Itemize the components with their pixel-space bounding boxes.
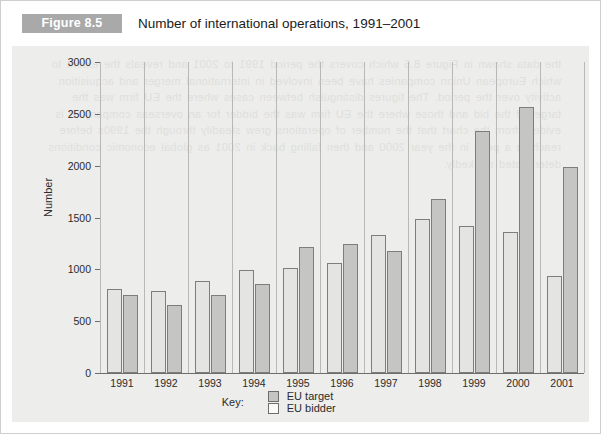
- legend-key-label: Key:: [222, 396, 244, 408]
- x-axis-tick-label: 1991: [100, 377, 144, 389]
- group-separator: [320, 62, 321, 373]
- y-axis-title: Number: [42, 178, 54, 217]
- bar-group: [232, 62, 276, 373]
- y-axis-tick-label: 500: [73, 315, 91, 327]
- y-axis-tick-label: 1000: [68, 263, 91, 275]
- outlined-white-swatch: [268, 403, 279, 414]
- group-separator: [144, 62, 145, 373]
- bar-eu-target-1997: [371, 235, 386, 373]
- bar-eu-target-1999: [459, 226, 474, 373]
- y-axis-tick: [95, 373, 101, 374]
- bar-eu-bidder-1997: [387, 251, 402, 373]
- bar-eu-target-1993: [195, 281, 210, 373]
- legend-entry-eu-target: EU target: [268, 390, 333, 402]
- group-separator: [100, 62, 101, 373]
- x-axis-tick-label: 1992: [144, 377, 188, 389]
- x-axis-tick-label: 1994: [232, 377, 276, 389]
- bar-eu-bidder-1992: [167, 305, 182, 373]
- bar-group: [540, 62, 584, 373]
- x-axis-tick-label: 1997: [364, 377, 408, 389]
- group-separator: [540, 62, 541, 373]
- figure-title: Number of international operations, 1991…: [138, 14, 420, 33]
- group-separator: [408, 62, 409, 373]
- group-separator: [496, 62, 497, 373]
- group-separator: [276, 62, 277, 373]
- chart-panel: the data shown in Figure 8.5 which cover…: [12, 46, 589, 422]
- bar-eu-bidder-1999: [475, 131, 490, 373]
- figure-number-badge: Figure 8.5: [22, 14, 122, 33]
- group-separator: [188, 62, 189, 373]
- x-axis-tick-label: 1993: [188, 377, 232, 389]
- figure-page: Figure 8.5 Number of international opera…: [0, 0, 601, 434]
- bar-eu-bidder-2000: [519, 107, 534, 373]
- legend-label: EU target: [287, 390, 333, 402]
- bar-eu-target-1998: [415, 219, 430, 373]
- bar-group: [320, 62, 364, 373]
- bar-eu-bidder-1996: [343, 244, 358, 373]
- bar-eu-bidder-1993: [211, 295, 226, 373]
- bar-eu-bidder-1994: [255, 284, 270, 373]
- group-separator: [452, 62, 453, 373]
- y-axis-tick-label: 0: [85, 367, 91, 379]
- bar-eu-bidder-1995: [299, 247, 314, 373]
- x-axis-tick-label: 2000: [496, 377, 540, 389]
- group-separator: [364, 62, 365, 373]
- x-axis-tick-label: 1996: [320, 377, 364, 389]
- bar-group: [144, 62, 188, 373]
- x-axis-tick-label: 1995: [276, 377, 320, 389]
- bar-eu-target-1996: [327, 263, 342, 373]
- legend-label: EU bidder: [287, 402, 336, 414]
- bar-eu-target-2001: [547, 276, 562, 373]
- group-separator: [584, 62, 585, 373]
- bar-eu-target-1992: [151, 291, 166, 373]
- bar-eu-target-2000: [503, 232, 518, 373]
- y-axis-tick-label: 2500: [68, 108, 91, 120]
- bar-eu-target-1991: [107, 289, 122, 373]
- legend-entry-eu-bidder: EU bidder: [268, 402, 379, 414]
- x-axis-tick-label: 1998: [408, 377, 452, 389]
- y-axis-tick-label: 1500: [68, 212, 91, 224]
- figure-header: Figure 8.5 Number of international opera…: [0, 0, 601, 46]
- bar-eu-target-1995: [283, 268, 298, 373]
- chart-legend: Key: EU targetEU bidder: [12, 390, 589, 414]
- bar-group: [496, 62, 540, 373]
- bar-eu-bidder-2001: [563, 167, 578, 373]
- x-axis-line: [100, 373, 584, 374]
- bar-eu-bidder-1991: [123, 295, 138, 373]
- y-axis-tick-label: 3000: [68, 56, 91, 68]
- filled-gray-swatch: [268, 391, 279, 402]
- bar-group: [452, 62, 496, 373]
- plot-area: 050010001500200025003000 199119921993199…: [100, 62, 584, 373]
- bar-group: [364, 62, 408, 373]
- y-axis-tick-label: 2000: [68, 160, 91, 172]
- bar-group: [408, 62, 452, 373]
- x-axis-tick-label: 1999: [452, 377, 496, 389]
- bar-eu-bidder-1998: [431, 199, 446, 373]
- bar-group: [276, 62, 320, 373]
- bar-group: [188, 62, 232, 373]
- legend-entries: EU targetEU bidder: [268, 390, 379, 414]
- x-axis-tick-label: 2001: [540, 377, 584, 389]
- bar-group: [100, 62, 144, 373]
- group-separator: [232, 62, 233, 373]
- bar-eu-target-1994: [239, 270, 254, 373]
